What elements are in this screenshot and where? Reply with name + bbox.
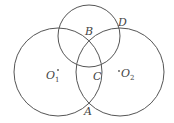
label-point-a: A <box>83 105 92 118</box>
center-o1-dot <box>57 69 59 71</box>
label-o2: O2 <box>121 67 135 82</box>
label-o1: O1 <box>46 69 60 84</box>
label-point-b: B <box>84 25 93 38</box>
label-point-d: D <box>117 16 127 29</box>
label-point-c: C <box>93 70 102 83</box>
center-o2-dot <box>118 70 120 72</box>
three-circles-diagram: O1 O2 B D C A <box>0 0 174 123</box>
